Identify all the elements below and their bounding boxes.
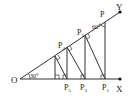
label-p1: P1 (102, 83, 109, 93)
angle-label-o: 30° (30, 73, 39, 79)
segment-p3-p4 (67, 47, 85, 79)
right-angle-marker (69, 46, 72, 51)
right-angle-marker (57, 55, 60, 60)
label-o: O (11, 75, 18, 85)
label-p3: P3 (80, 83, 87, 93)
angle-label-p: 60° (92, 24, 101, 30)
label-y: Y (116, 2, 123, 12)
right-angle-marker (87, 34, 90, 39)
point-x-dot (118, 77, 121, 80)
segment-p1-p2 (85, 35, 105, 79)
label-p5: P5 (64, 83, 71, 93)
label-p4: P4 (58, 41, 65, 51)
label-x: X (116, 84, 123, 94)
right-angle-marker (55, 75, 59, 79)
label-p: P (100, 10, 105, 19)
geometry-diagram: O X Y P P2 P4 P5 P3 P1 30° 60° (0, 0, 134, 98)
segment-p5-next (55, 56, 67, 79)
label-p2: P2 (77, 28, 84, 38)
